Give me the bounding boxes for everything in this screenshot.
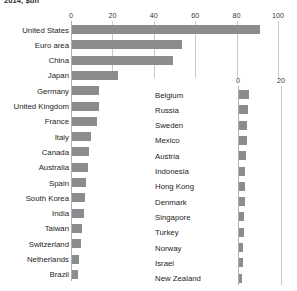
category-label: Euro area: [0, 41, 69, 50]
category-label: Belgium: [155, 91, 183, 100]
x-axis-tick-label: 20: [277, 76, 285, 85]
bar: [72, 209, 84, 218]
bar: [239, 151, 246, 160]
bar: [72, 132, 91, 141]
x-axis-tick-label: 80: [233, 11, 241, 20]
gridline: [278, 21, 279, 78]
category-label: China: [0, 56, 69, 65]
bar: [72, 86, 99, 95]
category-label: Netherlands: [0, 255, 69, 264]
bar: [72, 239, 81, 248]
x-axis-tick-label: 0: [236, 76, 240, 85]
bar: [239, 274, 242, 283]
category-label: New Zealand: [155, 274, 201, 283]
bar: [239, 105, 248, 114]
bar: [239, 228, 244, 237]
x-axis-tick-label: 100: [272, 11, 284, 20]
category-label: South Korea: [0, 194, 69, 203]
bar: [72, 270, 78, 279]
category-label: Hong Kong: [155, 182, 194, 191]
bar: [72, 71, 118, 80]
bar: [72, 255, 79, 264]
category-label: United States: [0, 26, 69, 35]
category-label: Turkey: [155, 228, 179, 237]
bar: [239, 197, 245, 206]
x-axis-tick-label: 0: [69, 11, 73, 20]
bar: [72, 147, 89, 156]
category-label: Russia: [155, 106, 179, 115]
bar: [72, 102, 99, 111]
bar: [72, 224, 82, 233]
category-label: Singapore: [155, 213, 191, 222]
category-label: Canada: [0, 148, 69, 157]
category-label: Spain: [0, 179, 69, 188]
bar: [72, 40, 182, 49]
bar: [239, 121, 247, 130]
category-label: Israel: [155, 259, 174, 268]
bar: [239, 258, 243, 267]
chart-title: 2014, $bn: [4, 0, 39, 5]
gridline: [281, 86, 282, 285]
bar: [72, 56, 173, 65]
category-label: Switzerland: [0, 240, 69, 249]
x-axis-tick-label: 60: [191, 11, 199, 20]
bar-chart-figure: 2014, $bn 020406080100United StatesEuro …: [0, 0, 297, 291]
category-label: Mexico: [155, 136, 180, 145]
bar: [239, 243, 243, 252]
category-label: Austria: [155, 152, 179, 161]
category-label: Taiwan: [0, 224, 69, 233]
bar: [239, 136, 247, 145]
bar: [72, 178, 86, 187]
category-label: Australia: [0, 163, 69, 172]
bar: [72, 163, 88, 172]
category-label: Japan: [0, 71, 69, 80]
category-label: Indonesia: [155, 167, 189, 176]
category-label: France: [0, 117, 69, 126]
category-label: Brazil: [0, 270, 69, 279]
category-label: Italy: [0, 133, 69, 142]
bar: [239, 90, 249, 99]
x-axis-tick-label: 40: [150, 11, 158, 20]
category-label: United Kingdom: [0, 102, 69, 111]
bar: [239, 182, 245, 191]
bar: [72, 117, 97, 126]
x-axis-tick-label: 20: [108, 11, 116, 20]
category-label: Sweden: [155, 121, 183, 130]
category-label: India: [0, 209, 69, 218]
bar: [72, 25, 260, 34]
category-label: Germany: [0, 87, 69, 96]
bar: [239, 212, 244, 221]
category-label: Denmark: [155, 198, 187, 207]
bar: [72, 193, 85, 202]
bar: [239, 167, 245, 176]
category-label: Norway: [155, 244, 181, 253]
